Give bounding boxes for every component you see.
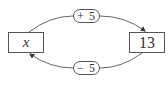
node-13-label: 13 — [139, 34, 155, 52]
edge-label-plus-5: + 5 — [73, 9, 100, 23]
node-13: 13 — [129, 32, 165, 53]
diagram: x 13 + 5 − 5 — [0, 0, 168, 98]
edge-label-text: + 5 — [77, 9, 96, 24]
node-x: x — [8, 32, 44, 53]
edge-label-minus-5: − 5 — [73, 61, 100, 75]
node-x-label: x — [23, 34, 30, 51]
edge-label-text: − 5 — [77, 61, 96, 76]
